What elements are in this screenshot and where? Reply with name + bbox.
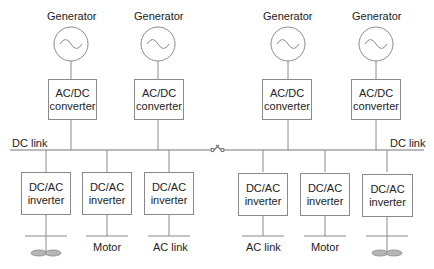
inverter-line1: DC/AC bbox=[90, 181, 124, 194]
load-label-ac-link: AC link bbox=[246, 241, 281, 253]
generator-icon bbox=[54, 27, 88, 79]
inverter-line1: DC/AC bbox=[370, 183, 404, 196]
inverter-line1: DC/AC bbox=[29, 181, 63, 194]
dcac-inverter-box: DC/AC inverter bbox=[21, 172, 71, 215]
dcac-inverter-box: DC/AC inverter bbox=[362, 174, 413, 217]
acdc-converter-box: AC/DC converter bbox=[262, 79, 312, 120]
converter-line2: converter bbox=[136, 100, 182, 113]
dc-link-label-left: DC link bbox=[12, 137, 47, 149]
converter-line2: converter bbox=[353, 100, 399, 113]
converter-line2: converter bbox=[50, 100, 96, 113]
inverter-connections bbox=[46, 150, 387, 172]
converter-line1: AC/DC bbox=[142, 87, 176, 100]
dcac-inverter-box: DC/AC inverter bbox=[82, 172, 132, 215]
propeller-icon bbox=[372, 250, 402, 256]
propeller-icon bbox=[31, 250, 61, 256]
converter-line2: converter bbox=[264, 100, 310, 113]
inverter-line2: inverter bbox=[369, 196, 406, 209]
inverter-line2: inverter bbox=[89, 194, 126, 207]
dc-link-label-right: DC link bbox=[390, 137, 425, 149]
generator-label: Generator bbox=[134, 10, 184, 22]
generator-icon bbox=[141, 27, 175, 79]
acdc-converter-box: AC/DC converter bbox=[48, 79, 97, 120]
generator-label: Generator bbox=[263, 10, 313, 22]
converter-line1: AC/DC bbox=[359, 87, 393, 100]
load-label-motor: Motor bbox=[311, 241, 339, 253]
converter-line1: AC/DC bbox=[55, 87, 89, 100]
load-label-motor: Motor bbox=[93, 241, 121, 253]
dcac-inverter-box: DC/AC inverter bbox=[300, 173, 350, 216]
diagram-lines bbox=[0, 0, 434, 269]
load-label-ac-link: AC link bbox=[153, 241, 188, 253]
inverter-line2: inverter bbox=[245, 195, 282, 208]
converter-line1: AC/DC bbox=[270, 87, 304, 100]
acdc-converter-box: AC/DC converter bbox=[134, 79, 184, 120]
inverter-line2: inverter bbox=[307, 195, 344, 208]
inverter-line1: DC/AC bbox=[152, 181, 186, 194]
dcac-inverter-box: DC/AC inverter bbox=[144, 172, 194, 215]
generator-label: Generator bbox=[47, 10, 97, 22]
inverter-line1: DC/AC bbox=[308, 182, 342, 195]
dcac-inverter-box: DC/AC inverter bbox=[238, 173, 288, 216]
generator-label: Generator bbox=[352, 10, 402, 22]
generator-icon bbox=[359, 27, 393, 79]
inverter-line2: inverter bbox=[151, 194, 188, 207]
generator-symbols bbox=[54, 27, 393, 79]
acdc-converter-box: AC/DC converter bbox=[351, 79, 401, 120]
inverter-line1: DC/AC bbox=[246, 182, 280, 195]
generator-icon bbox=[271, 27, 305, 79]
dc-bus bbox=[10, 145, 424, 152]
load-connections bbox=[25, 214, 408, 252]
inverter-line2: inverter bbox=[28, 194, 65, 207]
converter-connections bbox=[71, 119, 376, 150]
